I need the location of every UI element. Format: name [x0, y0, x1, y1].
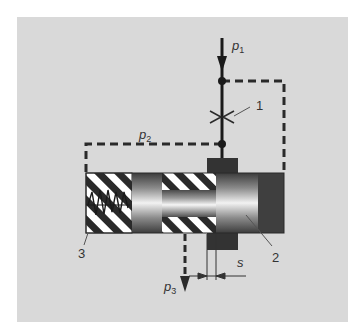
label-2: 2 — [272, 250, 279, 265]
middle-chamber-bottom — [162, 217, 216, 233]
leader-1 — [234, 107, 250, 116]
piston-left — [132, 173, 162, 233]
label-1: 1 — [256, 98, 263, 113]
outlet-arrow-icon — [180, 276, 190, 292]
spring-chamber — [86, 173, 132, 233]
middle-chamber-top — [162, 173, 216, 190]
label-p1: p1 — [231, 38, 244, 55]
control-piston — [216, 173, 258, 233]
valve-body — [86, 173, 284, 233]
junction-dot-mid — [218, 140, 226, 148]
junction-dot-top — [218, 77, 226, 85]
supply-arrow-icon — [217, 56, 227, 72]
outlet-port-block — [207, 233, 238, 250]
label-p3: p3 — [163, 279, 176, 296]
inlet-port-block — [207, 158, 238, 174]
label-3: 3 — [78, 246, 85, 261]
pilot-line-p2 — [86, 144, 222, 172]
label-p2: p2 — [138, 127, 151, 144]
leader-3 — [84, 233, 88, 245]
end-cap — [258, 173, 284, 233]
piston-rod — [162, 190, 216, 217]
label-s: s — [237, 255, 244, 270]
valve-diagram: p1 p2 p3 s 1 2 3 — [0, 0, 362, 333]
